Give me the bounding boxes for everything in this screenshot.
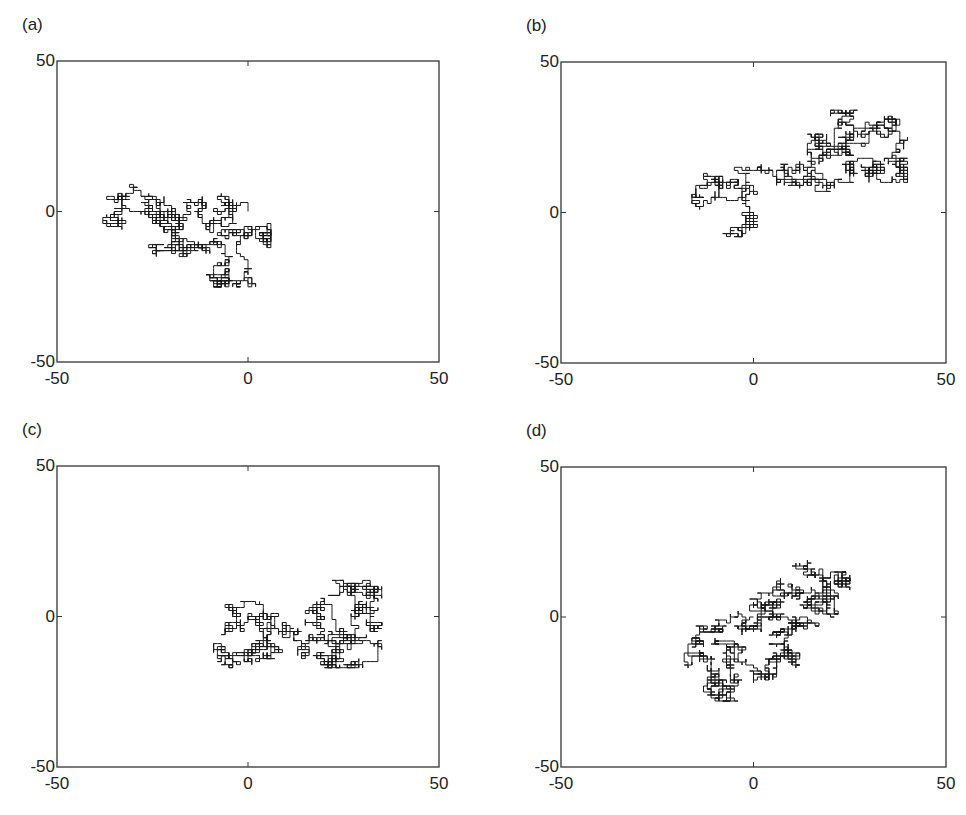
y-tick-label: 0 <box>46 608 55 625</box>
x-tick-label: 0 <box>749 371 758 388</box>
x-tick-label: 50 <box>430 775 449 792</box>
random-walk-trace <box>103 184 271 286</box>
y-tick-label: 0 <box>46 203 55 220</box>
panel-label: (a) <box>22 15 43 35</box>
figure-canvas <box>0 0 966 815</box>
y-tick-label: -50 <box>534 354 559 371</box>
y-tick-label: -50 <box>30 353 55 370</box>
x-tick-label: -50 <box>549 775 574 792</box>
panel-label: (b) <box>526 16 547 36</box>
random-walk-trace <box>684 560 850 701</box>
x-tick-label: -50 <box>45 370 70 387</box>
x-tick-label: 0 <box>243 775 252 792</box>
y-tick-label: 0 <box>550 204 559 221</box>
x-tick-label: 0 <box>243 370 252 387</box>
y-tick-label: -50 <box>30 758 55 775</box>
x-tick-label: 50 <box>937 775 956 792</box>
panel-label: (d) <box>526 421 547 441</box>
panel-b <box>561 62 946 363</box>
panel-label: (c) <box>22 420 42 440</box>
y-tick-label: 50 <box>540 458 559 475</box>
x-tick-label: 0 <box>749 775 758 792</box>
panel-c <box>57 466 439 767</box>
y-tick-label: -50 <box>534 758 559 775</box>
y-tick-label: 0 <box>550 608 559 625</box>
x-tick-label: 50 <box>430 370 449 387</box>
panel-d <box>561 467 946 767</box>
y-tick-label: 50 <box>36 457 55 474</box>
y-tick-label: 50 <box>540 53 559 70</box>
panel-a <box>57 61 439 362</box>
x-tick-label: 50 <box>937 371 956 388</box>
x-tick-label: -50 <box>45 775 70 792</box>
y-tick-label: 50 <box>36 52 55 69</box>
random-walk-trace <box>214 580 382 667</box>
x-tick-label: -50 <box>549 371 574 388</box>
random-walk-trace <box>692 110 908 236</box>
